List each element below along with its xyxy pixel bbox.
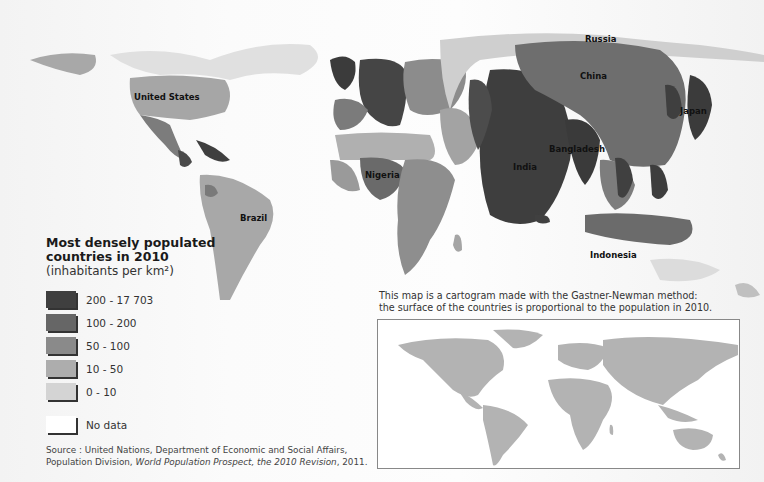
source-note: Source : United Nations, Department of E… bbox=[46, 444, 367, 468]
region-caribbean bbox=[196, 140, 230, 162]
inset-asia bbox=[603, 337, 738, 405]
inset-australia bbox=[673, 428, 713, 450]
inset-map-graphic bbox=[378, 320, 739, 468]
inset-world-map bbox=[377, 319, 740, 469]
legend-label: 0 - 10 bbox=[86, 386, 117, 398]
source-suffix: , 2011. bbox=[337, 457, 368, 467]
legend-swatch bbox=[46, 383, 76, 400]
legend-label: 50 - 100 bbox=[86, 340, 130, 352]
region-indonesia bbox=[585, 213, 693, 245]
region-central-america bbox=[178, 150, 192, 167]
region-africa-central-east bbox=[397, 159, 455, 275]
label-brazil: Brazil bbox=[240, 213, 267, 223]
legend-item-no-data: No data bbox=[46, 413, 215, 436]
legend-label: No data bbox=[86, 419, 127, 431]
inset-africa bbox=[548, 378, 612, 450]
legend-subtitle: (inhabitants per km²) bbox=[46, 264, 215, 278]
legend-swatch bbox=[46, 291, 76, 308]
legend-item-0-10: 0 - 10 bbox=[46, 380, 215, 403]
source-prefix: Population Division, bbox=[46, 457, 135, 467]
region-canada bbox=[110, 44, 318, 80]
region-madagascar bbox=[453, 235, 462, 252]
inset-greenland bbox=[493, 330, 543, 349]
label-india: India bbox=[513, 162, 537, 172]
label-japan: Japan bbox=[679, 106, 707, 116]
caption-line1: This map is a cartogram made with the Ga… bbox=[379, 290, 712, 302]
source-line2: Population Division, World Population Pr… bbox=[46, 456, 367, 468]
region-sri-lanka bbox=[535, 215, 550, 224]
source-title: World Population Prospect, the 2010 Revi… bbox=[135, 457, 336, 467]
label-nigeria: Nigeria bbox=[365, 170, 400, 180]
legend-label: 10 - 50 bbox=[86, 363, 123, 375]
label-united-states: United States bbox=[134, 92, 200, 102]
legend-item-50-100: 50 - 100 bbox=[46, 334, 215, 357]
cartogram-caption: This map is a cartogram made with the Ga… bbox=[379, 290, 712, 314]
label-bangladesh: Bangladesh bbox=[549, 144, 605, 154]
region-north-africa bbox=[335, 133, 435, 161]
legend-swatch bbox=[46, 416, 76, 433]
inset-europe bbox=[558, 343, 608, 370]
inset-north-america bbox=[398, 338, 504, 396]
label-china: China bbox=[580, 71, 607, 81]
legend-swatch bbox=[46, 360, 76, 377]
legend-title-line1: Most densely populated bbox=[46, 236, 215, 250]
region-philippines bbox=[650, 165, 668, 199]
region-australia bbox=[650, 259, 720, 282]
source-line1: Source : United Nations, Department of E… bbox=[46, 444, 367, 456]
inset-madagascar bbox=[609, 425, 613, 435]
region-western-europe bbox=[359, 59, 407, 127]
legend-swatch bbox=[46, 337, 76, 354]
legend-swatch bbox=[46, 314, 76, 331]
legend-item-200-17703: 200 - 17 703 bbox=[46, 288, 215, 311]
legend-label: 100 - 200 bbox=[86, 317, 137, 329]
label-indonesia: Indonesia bbox=[590, 250, 637, 260]
label-russia: Russia bbox=[585, 34, 617, 44]
legend-title-line2: countries in 2010 bbox=[46, 250, 215, 264]
legend: Most densely populated countries in 2010… bbox=[46, 236, 215, 436]
inset-new-zealand bbox=[718, 453, 726, 460]
region-uk-ireland bbox=[330, 56, 356, 90]
region-west-africa bbox=[330, 160, 360, 191]
legend-item-100-200: 100 - 200 bbox=[46, 311, 215, 334]
caption-line2: the surface of the countries is proporti… bbox=[379, 302, 712, 314]
region-mexico bbox=[140, 115, 185, 160]
inset-southeast-asia bbox=[658, 405, 698, 422]
region-alaska bbox=[30, 53, 96, 75]
legend-label: 200 - 17 703 bbox=[86, 294, 153, 306]
inset-south-america bbox=[483, 405, 528, 466]
region-new-zealand bbox=[735, 283, 760, 298]
legend-item-10-50: 10 - 50 bbox=[46, 357, 215, 380]
